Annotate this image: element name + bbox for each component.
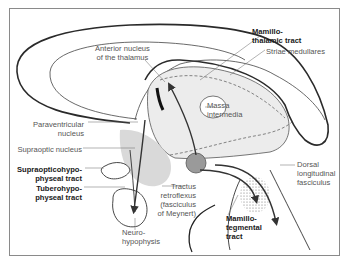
label-line: physeal tract [10,174,82,183]
label-line: of Meynert) [150,209,196,218]
label-line: Tuberohypo- [10,184,82,193]
label-line: tract [226,232,262,241]
label-line: (fasciculus [150,200,196,209]
label-tractus-retroflexus: Tractus retroflexus (fasciculus of Meyne… [150,182,196,218]
label-supraoptic-nucleus: Supraoptic nucleus [10,145,82,154]
label-line: of the thalamus [95,53,150,62]
label-line: nucleus [30,129,84,138]
label-paraventricular-nucleus: Paraventricular nucleus [30,120,84,138]
label-supraopticohypophyseal-tract: Supraopticohypo- physeal tract [10,165,82,183]
label-mamillotegmental-tract: Mamillo- tegmental tract [226,214,262,241]
label-line: hypophysis [122,237,160,246]
label-striae-medullares: Striae medullares [266,47,325,56]
label-line: Dorsal [297,160,335,169]
label-line: Massa [207,101,242,110]
label-line: retroflexus [150,191,196,200]
label-line: Mamillo- [252,27,301,36]
label-line: Paraventricular [30,120,84,129]
label-line: longitudinal [297,169,335,178]
label-line: Mamillo- [226,214,262,223]
label-line: Supraopticohypo- [10,165,82,174]
label-line: physeal tract [10,193,82,202]
label-line: tegmental [226,223,262,232]
label-massa-intermedia: Massa intermedia [207,101,242,119]
label-tuberohypophyseal-tract: Tuberohypo- physeal tract [10,184,82,202]
label-anterior-nucleus: Anterior nucleus of the thalamus [95,44,150,62]
label-line: Neuro- [122,228,160,237]
label-line: Tractus [150,182,196,191]
label-line: thalamic tract [252,36,301,45]
label-line: Anterior nucleus [95,44,150,53]
label-line: fasciculus [297,178,335,187]
label-mamillothalamic-tract: Mamillo- thalamic tract [252,27,301,45]
label-line: intermedia [207,110,242,119]
label-dorsal-longitudinal-fasciculus: Dorsal longitudinal fasciculus [297,160,335,187]
label-neurohypophysis: Neuro- hypophysis [122,228,160,246]
